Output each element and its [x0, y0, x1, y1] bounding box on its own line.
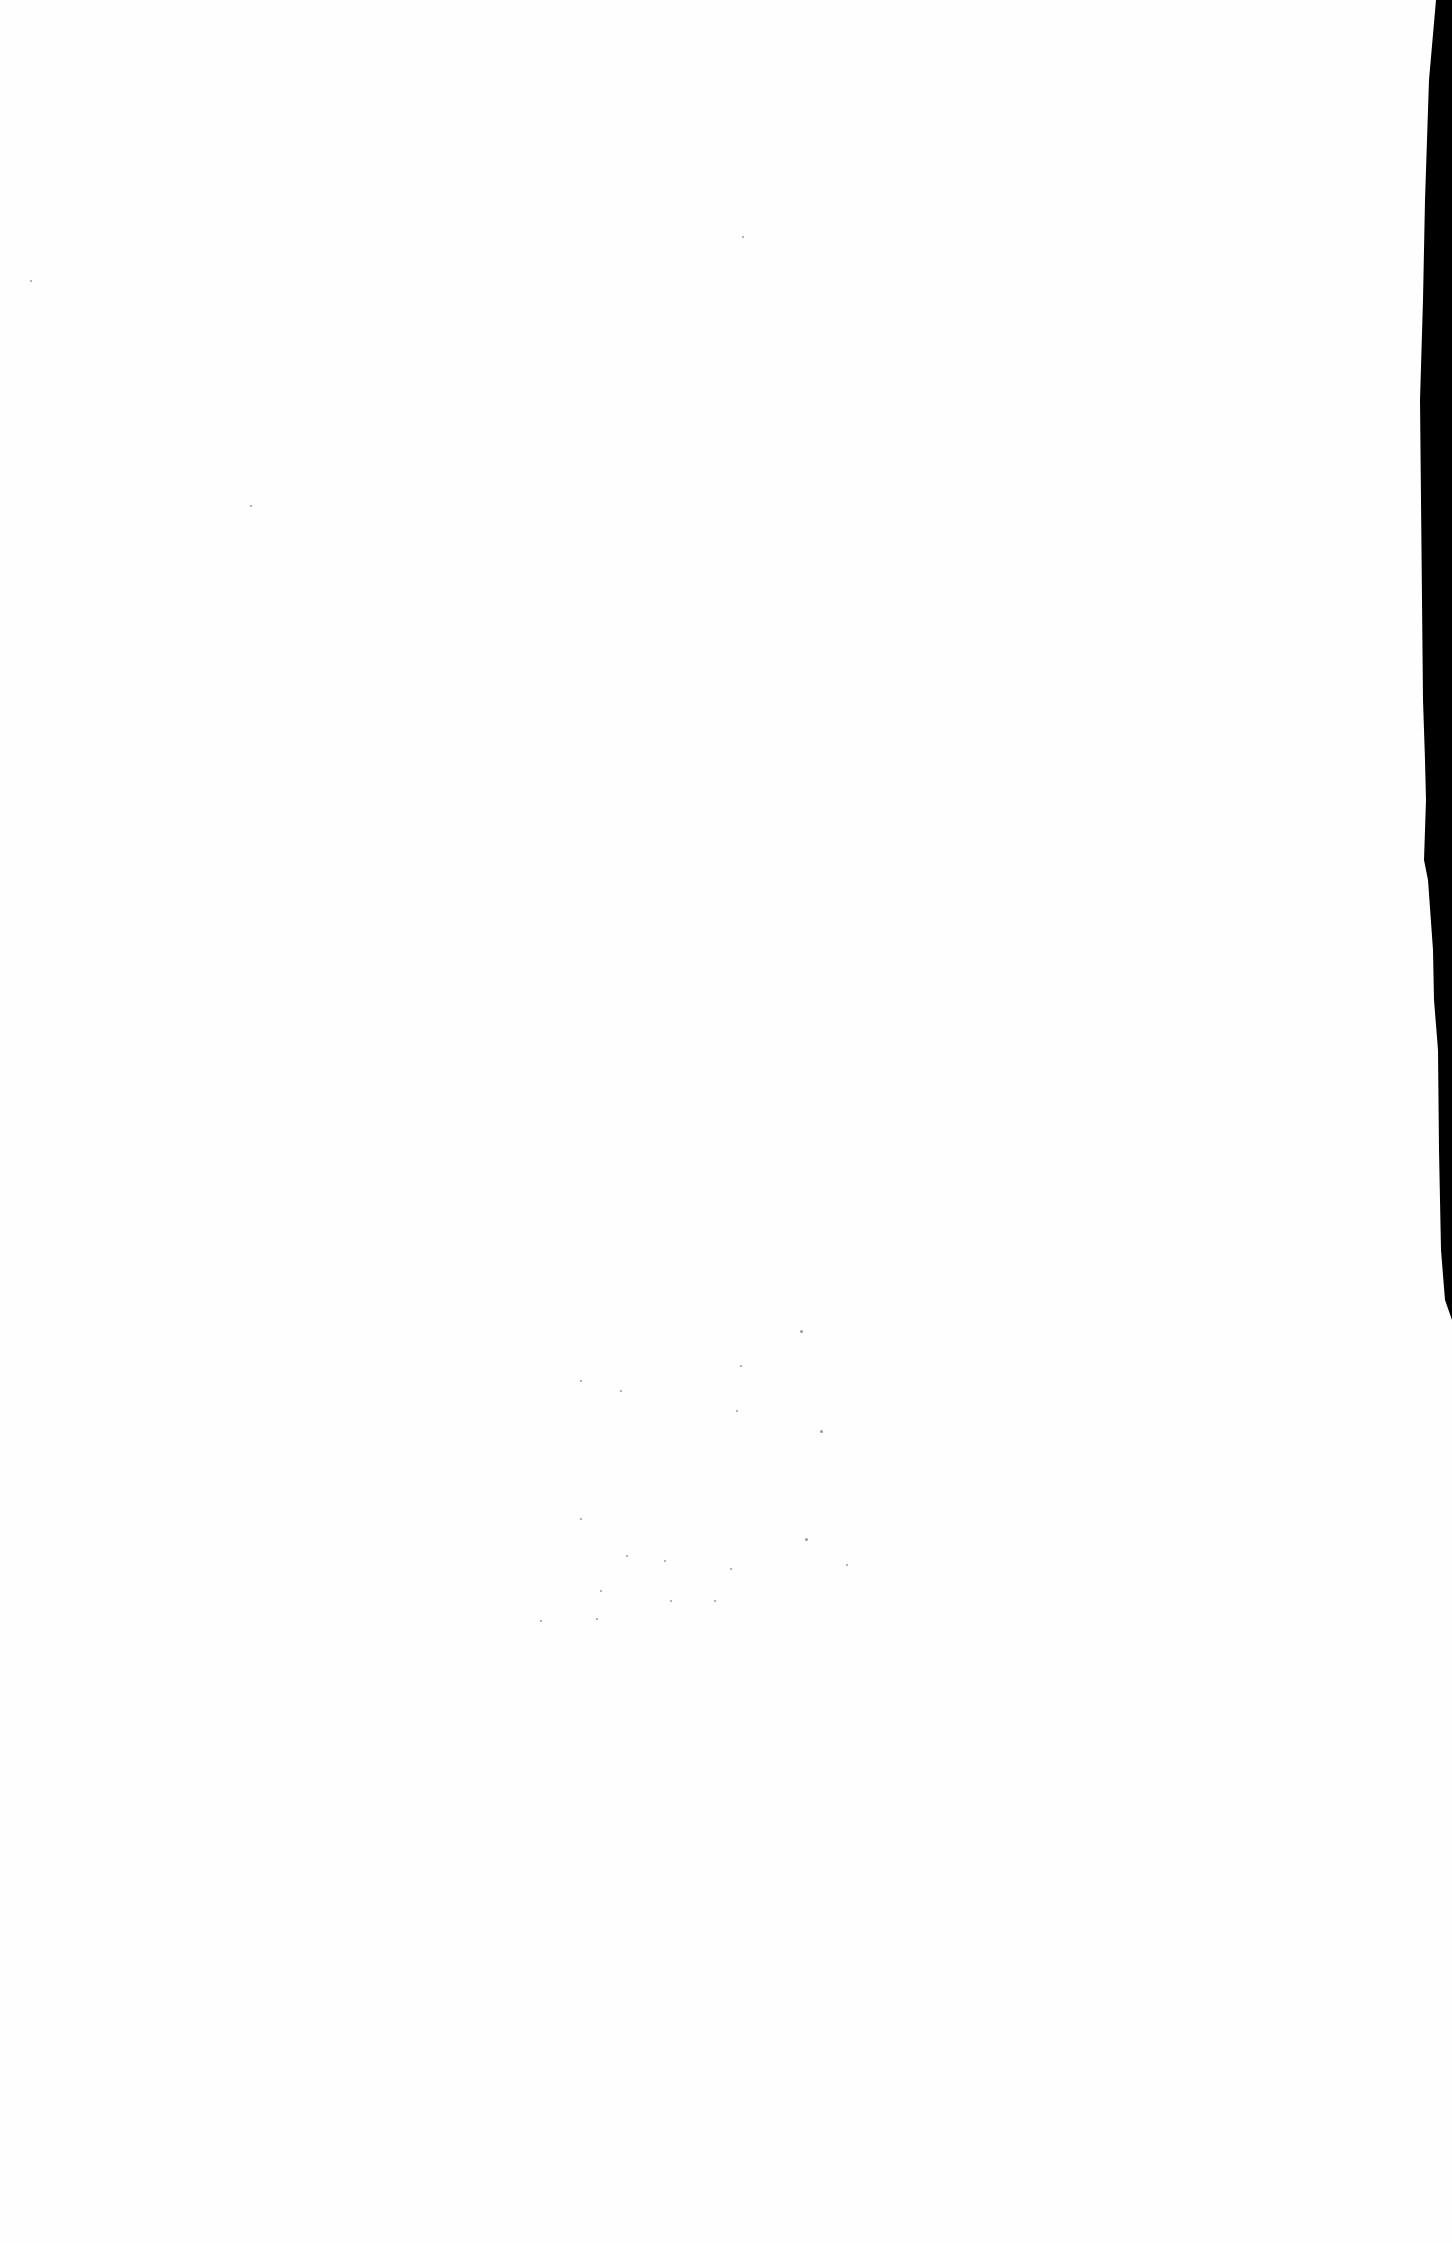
scan-edge-shadow: [1412, 0, 1452, 2243]
blank-scanned-page: [0, 0, 1452, 2243]
